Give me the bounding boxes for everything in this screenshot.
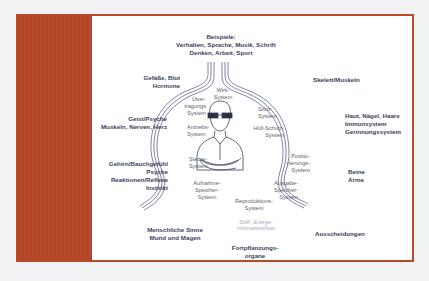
label-geist: Geist/Psyche Muskeln, Nerven, Herz	[95, 115, 167, 131]
label-gehirn: Gehirn/Bauchgefühl Psyche Reaktionen/Ref…	[100, 160, 168, 192]
system-huell: Hüll-Schutz- System	[250, 125, 284, 139]
system-steuer: Steuer- System	[189, 156, 208, 170]
system-antrieb: Antriebs- System	[187, 124, 209, 138]
system-wirk: Wirk- System	[208, 87, 238, 101]
label-haut: Haut, Nägel, Haare Immunsystem Gerinnung…	[345, 112, 401, 136]
system-uebertragung: Über- tragungs System	[176, 96, 206, 117]
label-gefaesse: Gefäße, Blut Hormone	[140, 74, 180, 90]
label-beine: Beine Arme	[348, 168, 365, 184]
label-skelett: Skelett/Muskeln	[313, 76, 360, 84]
label-fortpflanzung: Fortpflanzungs- organe	[230, 244, 280, 260]
system-ausgabe: Ausgabe- Speicher- System	[264, 180, 298, 201]
system-stuetz: Stütz- System	[258, 106, 277, 120]
system-positionierung: Positio- nierungs- System	[280, 153, 310, 174]
flow-note: Stoff-, Energie- Informationsfluss	[236, 219, 276, 231]
system-aufnahme: Aufnahme- Speicher- System	[190, 180, 224, 201]
label-ausscheidungen: Ausscheidungen	[315, 230, 365, 238]
examples-label: Beispiele: Verhalten, Sprache, Musik, Sc…	[176, 33, 266, 57]
label-sinne: Menschliche Sinne Mund und Magen	[140, 226, 210, 242]
